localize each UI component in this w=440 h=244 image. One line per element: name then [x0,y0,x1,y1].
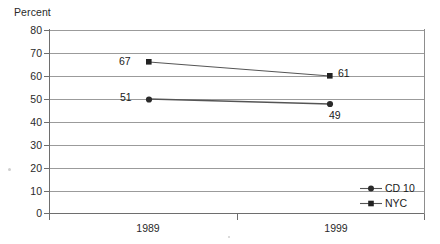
line-chart: Percent 80 70 60 50 40 30 20 10 0 1989 1… [0,0,440,244]
y-tick-mark-80 [44,30,50,31]
y-tick-label-30: 30 [16,140,42,151]
y-tick-mark-40 [44,122,50,123]
y-tick-label-80: 80 [16,25,42,36]
y-tick-label-40: 40 [16,117,42,128]
legend-label-cd-10: CD 10 [385,182,415,195]
scan-speck [8,168,11,171]
legend-label-nyc: NYC [385,197,407,210]
gridline-40 [50,122,424,123]
gridline-20 [50,168,424,169]
legend-marker-square-icon [360,196,382,211]
y-tick-label-20: 20 [16,163,42,174]
scan-speck [228,236,230,238]
y-tick-label-60: 60 [16,71,42,82]
y-tick-mark-70 [44,53,50,54]
y-axis-title: Percent [14,6,51,18]
data-label-nyc-1989: 67 [119,56,131,67]
legend-item-cd-10[interactable]: CD 10 [360,181,424,196]
x-tick-mark-left [49,214,50,220]
y-tick-mark-10 [44,191,50,192]
chart-legend: CD 10 NYC [360,181,424,211]
legend-marker-circle-icon [360,181,382,196]
y-tick-mark-20 [44,168,50,169]
legend-item-nyc[interactable]: NYC [360,196,424,211]
gridline-80 [50,30,424,31]
data-label-cd10-1999: 49 [329,110,341,121]
x-tick-label-1989: 1989 [118,222,178,234]
y-tick-label-0: 0 [16,208,42,219]
x-tick-mark-right [424,214,425,220]
y-tick-label-50: 50 [16,94,42,105]
series-line-nyc [149,62,330,76]
y-tick-mark-30 [44,145,50,146]
x-tick-label-1999: 1999 [306,222,366,234]
data-label-nyc-1999: 61 [338,68,350,79]
data-label-cd10-1989: 51 [120,92,132,103]
gridline-50 [50,99,424,100]
y-tick-mark-60 [44,76,50,77]
gridline-30 [50,145,424,146]
y-tick-label-70: 70 [16,48,42,59]
plot-right-border [424,29,425,215]
x-tick-mark-middle [237,214,238,220]
marker-cd10-1999 [327,101,333,107]
marker-nyc-1989 [146,59,152,65]
gridline-60 [50,76,424,77]
gridline-70 [50,53,424,54]
y-tick-label-10: 10 [16,186,42,197]
y-tick-mark-50 [44,99,50,100]
